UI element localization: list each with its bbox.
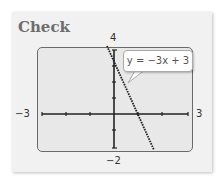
equation-callout: y = −3x + 3 <box>123 50 193 72</box>
xmin-label: −3 <box>15 108 30 119</box>
xmax-label: 3 <box>196 108 202 119</box>
ymax-label: 4 <box>110 32 116 43</box>
graph-plot <box>0 0 219 180</box>
ymin-label: −2 <box>106 155 121 166</box>
